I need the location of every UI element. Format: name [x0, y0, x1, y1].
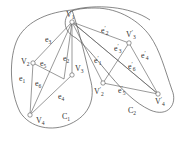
node-v1 — [70, 20, 74, 24]
edge-e1p — [72, 22, 103, 83]
edge-e5 — [33, 63, 64, 79]
graph-diagram: V1 V2 V3 V4 V′2 V′3 V′4 e3 e5 e2 e1 e6 e… — [0, 0, 186, 142]
label-e4p: e′4 — [141, 50, 149, 61]
label-e6p: e′6 — [128, 61, 136, 72]
label-e1: e1 — [19, 74, 26, 84]
label-c1: C1 — [62, 112, 70, 122]
label-e2p: e′2 — [101, 25, 109, 36]
label-e3: e3 — [45, 35, 52, 45]
label-e5: e5 — [40, 59, 47, 69]
label-c2: C2 — [128, 106, 136, 116]
node-v3p — [127, 41, 131, 45]
node-v3 — [70, 73, 74, 77]
label-e2: e2 — [63, 54, 70, 64]
label-e1p: e′1 — [94, 55, 102, 66]
node-v4p — [156, 92, 160, 96]
label-e6: e6 — [35, 79, 42, 89]
label-v2p: V′2 — [94, 86, 104, 97]
label-v2: V2 — [21, 57, 30, 67]
node-v2 — [31, 61, 35, 65]
label-v1: V1 — [66, 10, 75, 20]
label-e4: e4 — [58, 92, 65, 102]
label-v3: V3 — [75, 64, 84, 74]
label-e5p: e′5 — [118, 85, 126, 96]
label-e3p: e′3 — [114, 43, 122, 54]
edge-e5p — [103, 83, 158, 94]
node-v2p — [101, 81, 105, 85]
label-v4p: V′4 — [155, 96, 165, 107]
label-v3p: V′3 — [126, 29, 136, 40]
label-v4: V4 — [36, 116, 45, 126]
edge-e6 — [30, 63, 33, 115]
node-v4 — [28, 113, 32, 117]
